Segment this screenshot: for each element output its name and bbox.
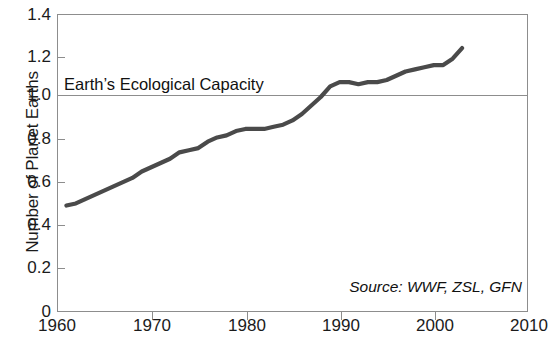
x-tick-label-2010: 2010 [494,316,552,335]
x-tick-label-1990: 1990 [306,316,376,335]
footprint-series-line [66,48,462,206]
x-tick-label-1980: 1980 [212,316,282,335]
x-tick-label-1970: 1970 [117,316,187,335]
source-note: Source: WWF, ZSL, GFN [300,278,522,296]
x-tick-label-1960: 1960 [22,316,92,335]
x-tick-label-2000: 2000 [400,316,470,335]
